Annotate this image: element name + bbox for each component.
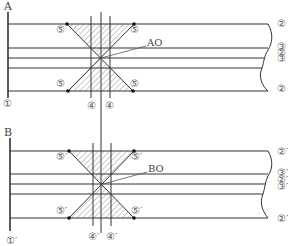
right-label: ② [277, 18, 286, 29]
corner-dot [65, 22, 69, 26]
vertical-label: ④ [87, 100, 96, 111]
corner-dot [67, 216, 71, 220]
right-label: ② [277, 83, 286, 94]
panel-label: B [4, 126, 12, 139]
hatched-region-bottom [69, 184, 134, 218]
vertical-label: ④′ [106, 231, 118, 242]
corner-label: ⑤′ [56, 205, 68, 216]
corner-label: ⑤ [56, 78, 65, 89]
corner-label: ⑤′ [56, 151, 68, 162]
corner-label: ⑤ [56, 24, 65, 35]
hatched-region-bottom [68, 58, 133, 91]
vertical-label: ④ [105, 100, 114, 111]
right-label: ②′ [277, 213, 288, 224]
corner-label: ⑤ [130, 78, 139, 89]
corner-label: ⑤′ [131, 151, 143, 162]
corner-dot [132, 216, 136, 220]
vertical-label: ④′ [88, 231, 100, 242]
panel-label: A [3, 0, 13, 13]
annotation-label: BO [148, 163, 164, 174]
corner-dot [131, 89, 135, 93]
panel-b: B ①′ BO ⑤′ ⑤′ ⑤′ ⑤′ ④′ ④′ ②′ ③′ ②′ ③′ ②′ [4, 126, 288, 246]
corner-dot [66, 89, 70, 93]
base-label: ①′ [6, 235, 18, 246]
corner-label: ⑤ [130, 24, 139, 35]
right-label: ③′ [277, 181, 288, 192]
corner-label: ⑤′ [131, 205, 143, 216]
panel-a: A ① AO ⑤ ⑤ ⑤ ⑤ ④ ④ ② ③ ② ③ ② [3, 0, 286, 111]
corner-dot [67, 149, 71, 153]
hatched-region-top [69, 151, 134, 184]
diagram-canvas: A ① AO ⑤ ⑤ ⑤ ⑤ ④ ④ ② ③ ② ③ ② B ① [0, 0, 288, 246]
annotation-label: AO [146, 37, 162, 48]
right-label: ③ [277, 53, 286, 64]
hatched-region-top [67, 24, 134, 58]
base-label: ① [3, 98, 12, 109]
right-label: ②′ [277, 146, 288, 157]
